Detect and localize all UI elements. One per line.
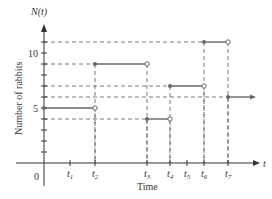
y-tick-label: 5 [33,103,38,114]
y-axis-symbol: N(t) [30,6,48,18]
x-tick-label: t4 [167,168,174,181]
x-tick-label: t6 [201,168,208,181]
x-tick-subscript: 4 [170,173,174,181]
x-tick-label: t3 [144,168,151,181]
closed-point [145,117,149,121]
open-point [202,84,206,88]
y-axis-arrow-icon [41,24,47,32]
step-chart: N(t) t 0 Time Number of rabbits 510t1t2t… [0,0,272,199]
closed-point [226,95,230,99]
closed-point [168,84,172,88]
x-tick-label: t7 [225,168,232,181]
continuation-arrow-icon [250,95,256,100]
origin-label: 0 [34,171,39,182]
step-series [42,40,256,121]
x-tick-subscript: 3 [146,173,151,181]
closed-point [93,62,97,66]
x-tick-label: t1 [67,168,73,181]
y-axis-title: Number of rabbits [13,62,24,135]
y-tick-label: 10 [28,48,38,59]
open-point [93,106,97,110]
x-tick-label: t5 [184,168,191,181]
x-tick-subscript: 1 [70,173,74,181]
open-point [168,117,172,121]
dashed-guides [44,42,228,163]
x-tick-subscript: 5 [187,173,191,181]
x-axis-arrow-icon [253,160,260,166]
x-tick-subscript: 7 [228,173,232,181]
x-axis-symbol: t [263,158,266,169]
open-point [226,40,230,44]
closed-point [202,40,206,44]
closed-point [42,106,46,110]
open-point [145,62,149,66]
x-axis-title: Time [137,181,158,192]
x-tick-subscript: 6 [204,173,208,181]
x-tick-label: t2 [92,168,99,181]
x-tick-subscript: 2 [95,173,99,181]
axes [16,24,260,186]
